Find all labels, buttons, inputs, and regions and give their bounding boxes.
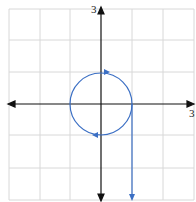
axes <box>8 7 194 201</box>
y-max-label: 3 <box>91 3 97 15</box>
circle-bottom-arrow-icon <box>92 132 98 138</box>
plot: 3 3 <box>0 0 196 202</box>
x-max-label: 3 <box>189 107 195 119</box>
y-axis-up-arrow-icon <box>98 7 104 14</box>
